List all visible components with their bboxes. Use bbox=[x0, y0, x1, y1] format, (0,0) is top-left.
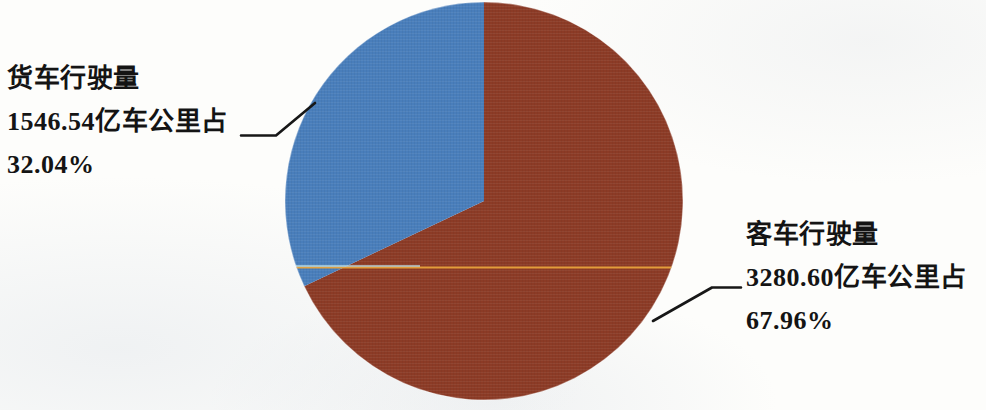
pie-label-bus: 客车行驶量 3280.60亿车公里占 67.96% bbox=[746, 222, 967, 334]
pie-label-bus-percent: 67.96% bbox=[746, 308, 967, 334]
pie-label-bus-value: 3280.60亿车公里占 bbox=[746, 265, 967, 291]
pie-label-bus-name: 客车行驶量 bbox=[746, 222, 967, 248]
pie-label-truck-value: 1546.54亿车公里占 bbox=[7, 109, 228, 135]
pie-label-truck-name: 货车行驶量 bbox=[7, 66, 228, 92]
pie-chart-graphic bbox=[0, 0, 986, 410]
leader-line-bus bbox=[653, 288, 741, 322]
pie-label-truck: 货车行驶量 1546.54亿车公里占 32.04% bbox=[7, 66, 228, 178]
pie-chart-figure: 货车行驶量 1546.54亿车公里占 32.04% 客车行驶量 3280.60亿… bbox=[0, 0, 986, 410]
pie-label-truck-percent: 32.04% bbox=[7, 152, 228, 178]
pie-texture-overlay bbox=[285, 2, 683, 400]
